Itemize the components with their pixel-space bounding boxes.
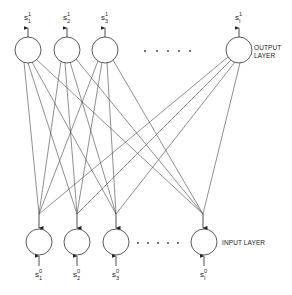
output-node-1: s11 [15, 11, 41, 63]
input-node-2: s02 [64, 229, 90, 281]
output-node-3-label: s13 [101, 11, 108, 24]
output-layer-label-line2: LAYER [254, 52, 276, 59]
input-node-1: s01 [26, 229, 52, 281]
input-layer: s01 s02 s03 s0I INPUT LAYER [26, 229, 265, 281]
network-diagram: s11 s12 s13 s1I OUTPUT LAYE [0, 0, 292, 295]
output-node-3: s13 [92, 11, 118, 63]
output-node-1-label: s11 [24, 11, 31, 24]
output-node-2-label: s12 [63, 11, 70, 24]
input-node-3-label: s03 [112, 268, 119, 281]
output-node-2: s12 [54, 11, 80, 63]
input-layer-label: INPUT LAYER [222, 239, 265, 246]
output-ellipsis [144, 50, 191, 52]
output-layer-label-line1: OUTPUT [254, 44, 281, 51]
input-node-2-label: s02 [73, 268, 80, 281]
output-node-I-label: s1I [235, 11, 242, 24]
input-node-3: s03 [103, 229, 129, 281]
input-arrows-top [39, 214, 203, 228]
input-node-I: s0I [191, 229, 217, 281]
input-ellipsis [137, 242, 179, 244]
input-node-I-label: s0I [200, 268, 207, 281]
connections [24, 57, 240, 214]
output-layer: s11 s12 s13 s1I OUTPUT LAYE [15, 11, 281, 63]
output-node-I: s1I [226, 11, 252, 63]
input-node-1-label: s01 [35, 268, 42, 281]
